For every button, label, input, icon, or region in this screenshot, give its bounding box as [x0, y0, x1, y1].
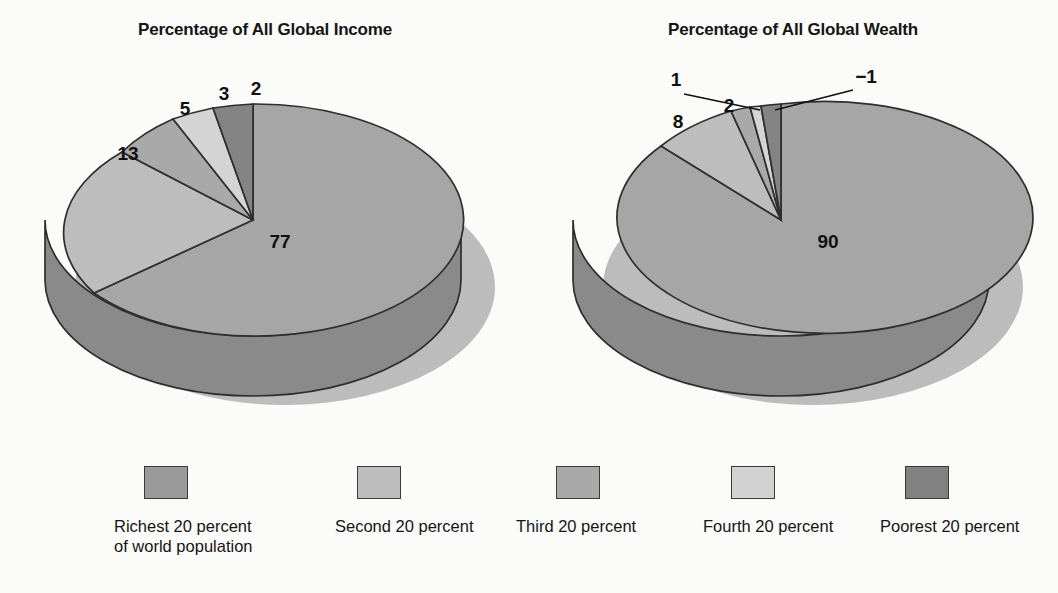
legend-swatch-fourth: [731, 466, 775, 499]
slice-value-poorest-income: 2: [251, 78, 262, 99]
leader-line-fourth-wealth: [684, 94, 760, 110]
pie-chart-wealth: 90 8 2 1 −1: [528, 52, 1058, 452]
slice-value-second-income: 13: [117, 143, 138, 164]
figure-root: Percentage of All Global Income 77 13 5 …: [0, 0, 1058, 593]
legend-label-poorest: Poorest 20 percent: [880, 516, 1019, 536]
legend-item-richest: Richest 20 percent of world population: [114, 466, 253, 556]
slice-value-poorest-wealth: −1: [855, 66, 877, 87]
slice-value-second-wealth: 8: [673, 111, 684, 132]
legend-swatch-second: [357, 466, 401, 499]
slice-value-fourth-wealth: 1: [671, 69, 682, 90]
slice-value-third-income: 5: [180, 98, 191, 119]
legend-item-fourth: Fourth 20 percent: [703, 466, 833, 536]
legend-swatch-third: [556, 466, 600, 499]
legend-label-fourth: Fourth 20 percent: [703, 516, 833, 536]
pie-wealth-svg: 90 8 2 1 −1: [528, 52, 1058, 452]
legend-item-poorest: Poorest 20 percent: [880, 466, 1019, 536]
chart-title-income: Percentage of All Global Income: [0, 20, 530, 40]
legend: Richest 20 percent of world population S…: [0, 466, 1058, 586]
pie-income-svg: 77 13 5 3 2: [0, 52, 530, 452]
legend-swatch-richest: [144, 466, 188, 499]
pie-top-income: [64, 104, 464, 336]
legend-item-third: Third 20 percent: [516, 466, 636, 536]
pie-chart-income: 77 13 5 3 2: [0, 52, 530, 452]
pie-top-wealth: [617, 101, 1033, 333]
legend-swatch-poorest: [905, 466, 949, 499]
slice-value-richest-income: 77: [269, 231, 290, 252]
slice-value-richest-wealth: 90: [817, 231, 838, 252]
slice-value-fourth-income: 3: [219, 83, 230, 104]
chart-title-wealth: Percentage of All Global Wealth: [528, 20, 1058, 40]
legend-label-second: Second 20 percent: [335, 516, 474, 536]
slice-value-third-wealth: 2: [724, 95, 735, 116]
legend-item-second: Second 20 percent: [335, 466, 474, 536]
legend-label-third: Third 20 percent: [516, 516, 636, 536]
legend-label-richest: Richest 20 percent of world population: [114, 516, 253, 556]
